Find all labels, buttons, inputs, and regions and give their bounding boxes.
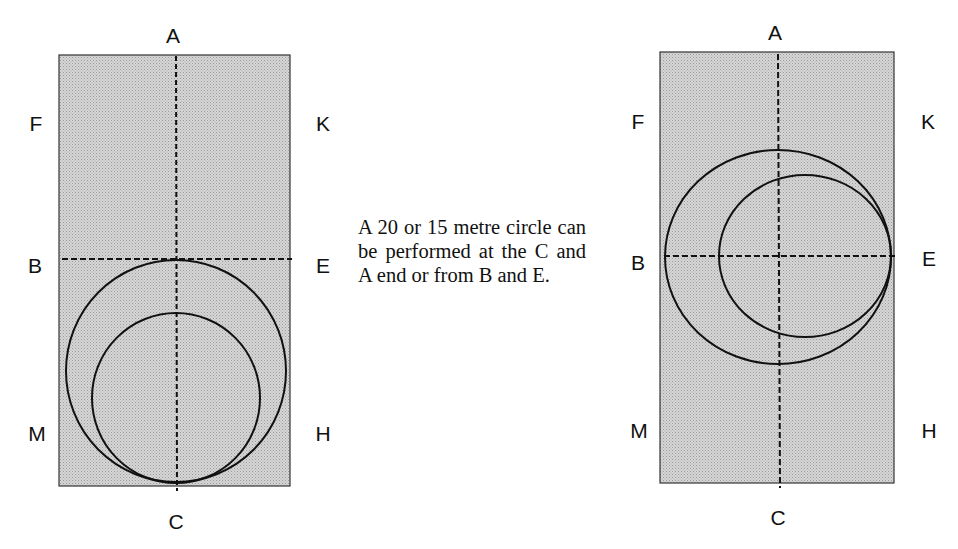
- marker-b-left: B: [28, 254, 42, 277]
- marker-f-right: F: [632, 110, 645, 133]
- marker-f-left: F: [30, 112, 43, 135]
- caption-text: A 20 or 15 metre circle can be performed…: [358, 215, 586, 287]
- marker-m-left: M: [28, 422, 46, 445]
- marker-h-left: H: [315, 422, 330, 445]
- centre-line-left: [176, 56, 177, 491]
- marker-a-left: A: [166, 24, 180, 47]
- marker-a-right: A: [768, 21, 782, 44]
- marker-k-right: K: [921, 110, 935, 133]
- marker-m-right: M: [630, 419, 648, 442]
- arena-left-rect: [59, 55, 290, 486]
- marker-c-right: C: [770, 506, 785, 529]
- arena-right-rect: [660, 52, 894, 483]
- marker-h-right: H: [921, 419, 936, 442]
- right-arena: A C F B M K E H: [630, 21, 936, 529]
- left-arena: A C F B M K E H: [28, 24, 331, 533]
- marker-b-right: B: [631, 251, 645, 274]
- marker-e-right: E: [922, 247, 936, 270]
- marker-k-left: K: [316, 112, 330, 135]
- marker-e-left: E: [316, 254, 330, 277]
- marker-c-left: C: [168, 510, 183, 533]
